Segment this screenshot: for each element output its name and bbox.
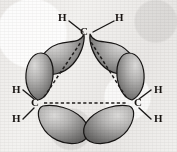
- orbital-lobe-group: [26, 34, 144, 144]
- hydrogen-label-left-upper: H: [12, 84, 21, 95]
- carbon-label-right: C: [134, 97, 142, 108]
- hydrogen-label-left-lower: H: [12, 113, 21, 124]
- carbon-label-top: C: [80, 26, 88, 37]
- orbital-diagram: C C C H H H H H H: [0, 0, 177, 152]
- orbital-lobe-bottom-left: [38, 106, 88, 144]
- hydrogen-label-right-upper: H: [154, 84, 163, 95]
- bond-cleft-hlower: [23, 108, 34, 119]
- hydrogen-label-right-lower: H: [154, 113, 163, 124]
- diagram-canvas: [0, 0, 177, 152]
- orbital-lobe-right-upper: [117, 53, 144, 100]
- hydrogen-label-top-left: H: [58, 12, 67, 23]
- hydrogen-label-top-right: H: [115, 12, 124, 23]
- orbital-lobe-left-upper: [26, 53, 53, 100]
- orbital-lobe-bottom-right: [84, 106, 134, 144]
- bond-ctop-hright: [93, 21, 114, 32]
- bond-cright-hlower: [139, 108, 151, 119]
- carbon-label-left: C: [31, 97, 39, 108]
